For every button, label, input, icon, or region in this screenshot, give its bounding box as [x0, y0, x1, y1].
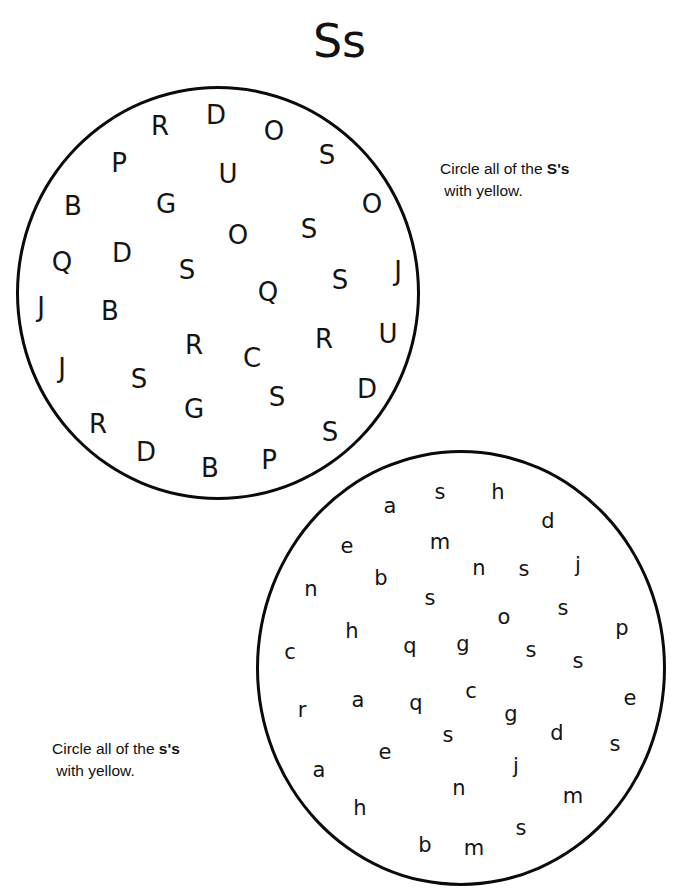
worksheet-page: Ss RDOPSUBGOOSQDSSJQJBRCRUJSSDGRSDBP sha…: [0, 0, 679, 890]
uppercase-letter-S-24[interactable]: S: [131, 366, 148, 392]
uppercase-letter-R-19[interactable]: R: [185, 332, 203, 358]
lowercase-letter-b-37[interactable]: b: [418, 835, 431, 856]
lowercase-letter-d-3[interactable]: d: [541, 511, 554, 532]
lowercase-letter-circle[interactable]: [256, 450, 666, 886]
uppercase-letter-S-14[interactable]: S: [332, 267, 349, 293]
uppercase-letter-Q-11[interactable]: Q: [52, 249, 72, 275]
lowercase-letter-h-14[interactable]: h: [345, 621, 358, 642]
uppercase-letter-G-7[interactable]: G: [156, 191, 176, 217]
lowercase-letter-m-5[interactable]: m: [430, 532, 450, 553]
uppercase-letter-R-28[interactable]: R: [89, 411, 107, 437]
lowercase-letter-s-19[interactable]: s: [526, 640, 537, 661]
lowercase-letter-b-10[interactable]: b: [374, 568, 387, 589]
lowercase-letter-c-21[interactable]: c: [465, 681, 477, 702]
instruction-lowercase-tail: with yellow.: [52, 762, 135, 779]
lowercase-letter-s-7[interactable]: s: [519, 559, 530, 580]
uppercase-letter-D-1[interactable]: D: [206, 102, 226, 128]
uppercase-letter-J-23[interactable]: J: [58, 355, 66, 381]
uppercase-letter-B-6[interactable]: B: [64, 193, 82, 219]
instruction-uppercase-target: S's: [547, 160, 570, 177]
uppercase-letter-J-15[interactable]: J: [394, 258, 402, 284]
lowercase-letter-o-12[interactable]: o: [498, 607, 511, 628]
uppercase-letter-P-32[interactable]: P: [261, 447, 277, 473]
uppercase-letter-S-4[interactable]: S: [319, 142, 336, 168]
lowercase-letter-s-36[interactable]: s: [516, 818, 527, 839]
uppercase-letter-S-29[interactable]: S: [322, 419, 339, 445]
lowercase-letter-h-35[interactable]: h: [353, 798, 366, 819]
lowercase-letter-e-30[interactable]: e: [379, 742, 392, 763]
uppercase-letter-D-30[interactable]: D: [136, 439, 156, 465]
uppercase-letter-circle[interactable]: [16, 86, 420, 500]
lowercase-letter-s-20[interactable]: s: [573, 651, 584, 672]
uppercase-letter-B-18[interactable]: B: [101, 298, 119, 324]
uppercase-letter-J-17[interactable]: J: [37, 294, 45, 320]
lowercase-letter-s-0[interactable]: s: [435, 482, 446, 503]
uppercase-letter-P-3[interactable]: P: [111, 150, 127, 176]
uppercase-letter-C-20[interactable]: C: [243, 345, 261, 371]
instruction-uppercase-tail: with yellow.: [440, 182, 523, 199]
uppercase-letter-D-26[interactable]: D: [357, 376, 377, 402]
uppercase-letter-B-31[interactable]: B: [201, 455, 219, 481]
lowercase-letter-m-34[interactable]: m: [563, 786, 583, 807]
uppercase-letter-R-0[interactable]: R: [151, 113, 169, 139]
lowercase-letter-n-6[interactable]: n: [472, 558, 485, 579]
uppercase-letter-D-12[interactable]: D: [112, 240, 132, 266]
instruction-lowercase-lead: Circle all of the: [52, 740, 159, 757]
lowercase-letter-a-32[interactable]: a: [313, 760, 326, 781]
lowercase-letter-s-29[interactable]: s: [610, 734, 621, 755]
instruction-uppercase-lead: Circle all of the: [440, 160, 547, 177]
lowercase-letter-s-13[interactable]: s: [558, 598, 569, 619]
uppercase-letter-S-13[interactable]: S: [179, 257, 196, 283]
lowercase-letter-j-31[interactable]: j: [513, 756, 519, 777]
lowercase-letter-c-16[interactable]: c: [284, 642, 296, 663]
lowercase-letter-g-26[interactable]: g: [504, 704, 517, 725]
uppercase-letter-U-5[interactable]: U: [218, 161, 237, 187]
lowercase-letter-n-9[interactable]: n: [304, 579, 317, 600]
lowercase-letter-n-33[interactable]: n: [452, 778, 465, 799]
lowercase-letter-j-8[interactable]: j: [575, 555, 581, 576]
lowercase-letter-q-25[interactable]: q: [409, 693, 422, 714]
uppercase-letter-Q-16[interactable]: Q: [258, 279, 278, 305]
instruction-uppercase: Circle all of the S's with yellow.: [440, 158, 645, 202]
lowercase-letter-d-27[interactable]: d: [550, 723, 563, 744]
uppercase-letter-R-21[interactable]: R: [315, 326, 333, 352]
uppercase-letter-S-10[interactable]: S: [301, 216, 318, 242]
lowercase-letter-e-23[interactable]: e: [624, 688, 637, 709]
uppercase-letter-O-9[interactable]: O: [228, 222, 248, 248]
lowercase-letter-g-18[interactable]: g: [456, 634, 469, 655]
lowercase-letter-m-38[interactable]: m: [464, 838, 484, 859]
uppercase-letter-U-22[interactable]: U: [378, 321, 397, 347]
uppercase-letter-G-27[interactable]: G: [184, 396, 204, 422]
instruction-lowercase-target: s's: [159, 740, 180, 757]
lowercase-letter-e-4[interactable]: e: [341, 536, 354, 557]
lowercase-letter-s-28[interactable]: s: [443, 725, 454, 746]
uppercase-letter-O-8[interactable]: O: [362, 191, 382, 217]
page-title: Ss: [0, 18, 679, 64]
lowercase-letter-a-2[interactable]: a: [384, 496, 397, 517]
uppercase-letter-O-2[interactable]: O: [264, 118, 284, 144]
lowercase-letter-a-22[interactable]: a: [352, 690, 365, 711]
lowercase-letter-h-1[interactable]: h: [491, 482, 504, 503]
lowercase-letter-q-17[interactable]: q: [403, 636, 416, 657]
lowercase-letter-p-15[interactable]: p: [615, 618, 628, 639]
instruction-lowercase: Circle all of the s's with yellow.: [52, 738, 257, 782]
lowercase-letter-s-11[interactable]: s: [425, 588, 436, 609]
uppercase-letter-S-25[interactable]: S: [269, 384, 286, 410]
lowercase-letter-r-24[interactable]: r: [298, 700, 307, 721]
